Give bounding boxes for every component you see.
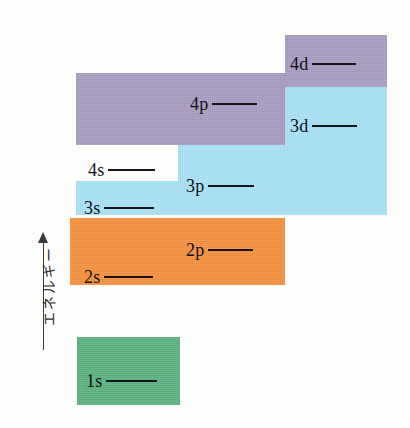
- orbital-3s-label: 3s: [84, 199, 100, 217]
- orbital-energy-diagram: 4d4p3d4s3p3s2p2s1s エネルギー: [0, 0, 410, 428]
- orbital-3s: 3s: [84, 199, 154, 217]
- orbital-2s: 2s: [84, 268, 153, 286]
- orbital-3d: 3d: [290, 117, 357, 135]
- orbital-4s-level-line: [108, 169, 155, 171]
- orbital-3p-label: 3p: [186, 177, 204, 195]
- orbital-4d: 4d: [290, 55, 356, 73]
- orbital-3d-level-line: [312, 125, 357, 127]
- orbital-4p: 4p: [190, 95, 257, 113]
- orbital-4p-label: 4p: [190, 95, 208, 113]
- orbital-4s-label: 4s: [88, 161, 104, 179]
- orbital-1s: 1s: [86, 372, 157, 390]
- orbital-1s-label: 1s: [86, 372, 102, 390]
- n3-shell-right-block: [285, 87, 387, 215]
- orbital-2s-label: 2s: [84, 268, 100, 286]
- orbital-2p: 2p: [186, 241, 253, 259]
- orbital-1s-level-line: [106, 380, 157, 382]
- orbital-2s-level-line: [104, 276, 153, 278]
- energy-axis: エネルギー: [22, 232, 82, 356]
- orbital-3s-level-line: [104, 207, 154, 209]
- orbital-3d-label: 3d: [290, 117, 308, 135]
- orbital-2p-label: 2p: [186, 241, 204, 259]
- orbital-4d-label: 4d: [290, 55, 308, 73]
- orbital-4s: 4s: [88, 161, 155, 179]
- orbital-3p-level-line: [208, 185, 254, 187]
- orbital-4d-level-line: [312, 63, 356, 65]
- energy-axis-label: エネルギー: [38, 227, 58, 345]
- orbital-3p: 3p: [186, 177, 254, 195]
- orbital-2p-level-line: [208, 249, 253, 251]
- orbital-4p-level-line: [212, 103, 257, 105]
